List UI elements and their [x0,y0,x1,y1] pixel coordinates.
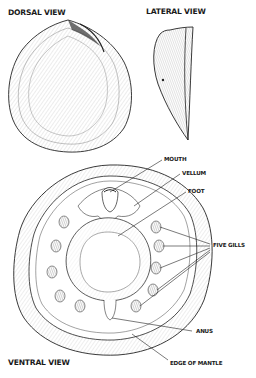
dorsal-view-title: DORSAL VIEW [8,8,66,17]
ventral-body [14,165,212,355]
dorsal-shell [9,20,132,152]
ventral-view-title: VENTRAL VIEW [8,358,70,367]
label-foot: FOOT [188,188,204,194]
label-vellum: VELLUM [182,170,206,176]
label-anus: ANUS [196,328,213,334]
lateral-view-title: LATERAL VIEW [146,7,206,16]
label-edge-of-mantle: EDGE OF MANTLE [170,360,222,366]
illustration [0,0,256,378]
label-five-gills: FIVE GILLS [213,242,245,248]
anatomy-diagram: DORSAL VIEW LATERAL VIEW VENTRAL VIEW MO… [0,0,256,378]
lateral-shell [154,27,193,140]
label-mouth: MOUTH [164,156,186,162]
